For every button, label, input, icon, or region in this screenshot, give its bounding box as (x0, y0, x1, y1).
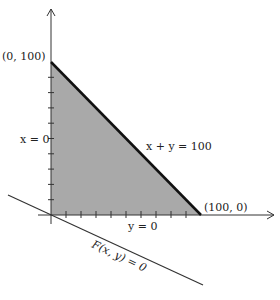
y-zero-label: y = 0 (127, 220, 157, 233)
constraint-label: x + y = 100 (146, 140, 212, 153)
point-right-label: (100, 0) (204, 201, 248, 214)
x-zero-label: x = 0 (20, 133, 49, 146)
feasible-region-diagram: (0, 100) (100, 0) x = 0 y = 0 x + y = 10… (0, 0, 280, 300)
point-top-label: (0, 100) (2, 50, 46, 63)
